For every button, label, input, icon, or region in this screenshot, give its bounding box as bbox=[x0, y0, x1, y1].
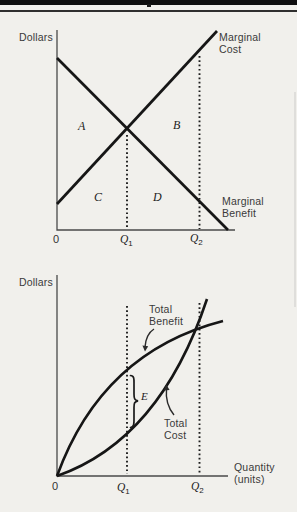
bottom-x-tick-origin: 0 bbox=[52, 481, 58, 493]
figure-strokes bbox=[0, 0, 297, 512]
marginal-cost-line bbox=[57, 31, 217, 204]
total-cost-label: Total Cost bbox=[164, 418, 187, 441]
gap-brace bbox=[131, 376, 139, 428]
top-q2-subscript: 2 bbox=[198, 237, 202, 246]
total-benefit-arrow bbox=[145, 329, 154, 347]
marginal-benefit-line bbox=[57, 58, 228, 230]
scanned-textbook-figure: Dollars Marginal Cost Marginal Benefit A… bbox=[0, 0, 297, 512]
total-benefit-arrowhead-icon bbox=[142, 346, 148, 352]
total-cost-label-line2: Cost bbox=[164, 430, 187, 442]
total-benefit-curve bbox=[57, 321, 223, 476]
bottom-x-axis-label-line2: (units) bbox=[234, 474, 275, 486]
top-y-axis-label: Dollars bbox=[10, 32, 53, 44]
bottom-x-tick-q1: Q1 bbox=[117, 482, 130, 497]
top-q1-subscript: 1 bbox=[128, 239, 132, 248]
total-benefit-label-line2: Benefit bbox=[149, 316, 183, 328]
bottom-q1-subscript: 1 bbox=[125, 486, 129, 495]
total-cost-arrow bbox=[166, 389, 174, 416]
marginal-benefit-label: Marginal Benefit bbox=[222, 196, 264, 219]
top-x-tick-q2: Q2 bbox=[190, 233, 203, 248]
total-cost-label-line1: Total bbox=[164, 418, 187, 430]
bottom-chart-axes bbox=[57, 275, 228, 476]
marginal-cost-label-line2: Cost bbox=[219, 44, 261, 56]
marginal-benefit-label-line1: Marginal bbox=[222, 196, 264, 208]
marginal-cost-label-line1: Marginal bbox=[219, 32, 261, 44]
top-x-tick-q1: Q1 bbox=[120, 234, 133, 249]
marginal-benefit-label-line2: Benefit bbox=[222, 208, 264, 220]
bottom-y-axis-label: Dollars bbox=[10, 277, 53, 289]
total-benefit-label-line1: Total bbox=[149, 304, 183, 316]
bottom-x-axis-label-line1: Quantity bbox=[234, 462, 275, 474]
region-label-b: B bbox=[173, 120, 180, 132]
gap-label-e: E bbox=[141, 391, 148, 403]
region-label-d: D bbox=[153, 192, 162, 204]
total-benefit-label: Total Benefit bbox=[149, 304, 183, 327]
region-label-c: C bbox=[94, 192, 102, 204]
marginal-cost-label: Marginal Cost bbox=[219, 32, 261, 55]
bottom-q2-subscript: 2 bbox=[199, 485, 203, 494]
bottom-x-tick-q2: Q2 bbox=[191, 481, 204, 496]
bottom-x-axis-label: Quantity (units) bbox=[234, 462, 275, 485]
total-cost-curve bbox=[57, 299, 207, 476]
top-x-tick-origin: 0 bbox=[53, 234, 59, 246]
region-label-a: A bbox=[78, 121, 85, 133]
